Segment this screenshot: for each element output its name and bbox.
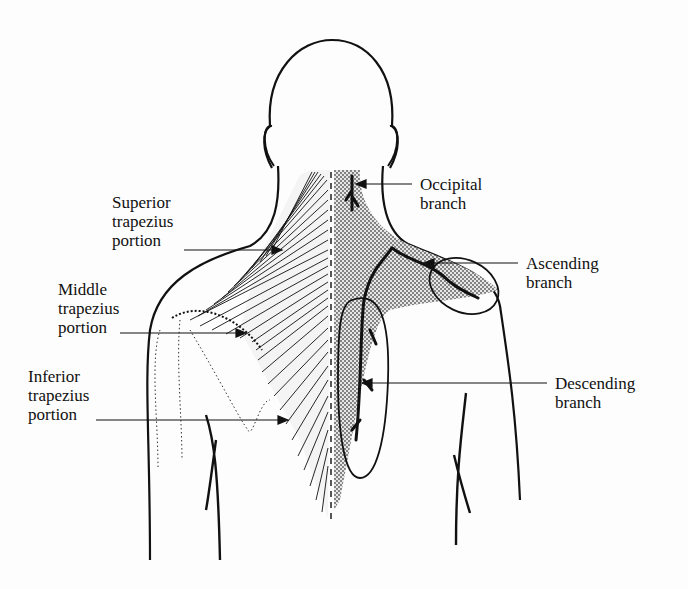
label-descending-branch: Descending branch xyxy=(555,374,635,412)
label-line: portion xyxy=(58,318,119,337)
label-line: trapezius xyxy=(28,386,89,405)
label-line: trapezius xyxy=(112,212,173,231)
right-torso-line xyxy=(454,393,470,545)
label-superior-trapezius: Superior trapezius portion xyxy=(112,193,173,250)
nerve-territory xyxy=(334,170,498,510)
head-outline xyxy=(264,40,398,168)
trapezius-muscle xyxy=(190,170,330,518)
right-ear xyxy=(388,126,397,166)
left-torso-line xyxy=(206,415,220,560)
label-line: portion xyxy=(112,231,173,250)
label-line: trapezius xyxy=(58,299,119,318)
label-inferior-trapezius: Inferior trapezius portion xyxy=(28,367,89,424)
label-middle-trapezius: Middle trapezius portion xyxy=(58,280,119,337)
label-occipital-branch: Occipital branch xyxy=(420,175,482,213)
label-line: branch xyxy=(526,273,599,292)
label-line: Inferior xyxy=(28,367,89,386)
label-ascending-branch: Ascending branch xyxy=(526,254,599,292)
label-line: branch xyxy=(420,194,482,213)
label-line: Descending xyxy=(555,374,635,393)
label-line: Superior xyxy=(112,193,173,212)
label-line: Ascending xyxy=(526,254,599,273)
body-outline-right xyxy=(382,166,520,500)
label-line: portion xyxy=(28,405,89,424)
label-line: Middle xyxy=(58,280,119,299)
label-line: branch xyxy=(555,393,635,412)
label-line: Occipital xyxy=(420,175,482,194)
left-ear xyxy=(265,126,274,166)
